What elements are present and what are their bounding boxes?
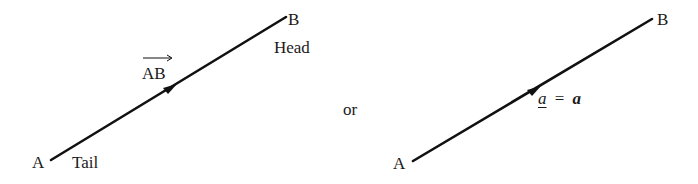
vector-a-notation: a = a <box>538 90 581 107</box>
right-point-b-label: B <box>657 11 668 28</box>
or-separator: or <box>343 101 357 118</box>
bold-vector-name: a <box>573 89 582 108</box>
left-arrowhead-icon <box>163 84 177 94</box>
right-point-a-label: A <box>393 155 405 172</box>
left-point-b-label: B <box>288 11 299 28</box>
vector-diagram: A Tail B Head AB or A B a = a <box>0 0 698 184</box>
head-label: Head <box>274 39 310 56</box>
underlined-vector-name: a <box>538 89 547 108</box>
equals-sign: = <box>555 89 565 108</box>
vector-lines <box>0 0 698 184</box>
left-point-a-label: A <box>32 154 44 171</box>
tail-label: Tail <box>72 154 98 171</box>
vector-ab-label: AB <box>142 65 166 82</box>
